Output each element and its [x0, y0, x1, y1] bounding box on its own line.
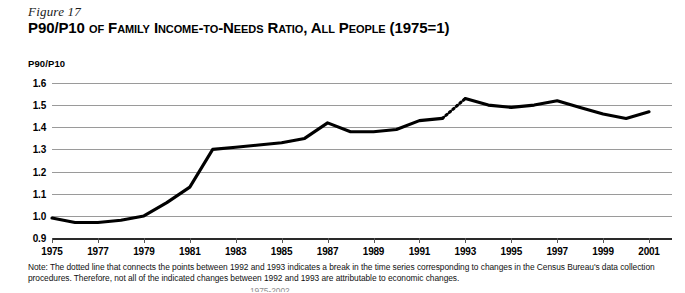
- y-axis-label: 1.6: [33, 78, 46, 89]
- y-axis-label: 1.2: [33, 166, 46, 177]
- x-axis-label: 1975: [41, 246, 62, 257]
- series-line: [52, 83, 672, 243]
- x-axis-label: 1999: [592, 246, 613, 257]
- x-axis-label: 1991: [409, 246, 430, 257]
- y-axis-label: 1.1: [33, 188, 46, 199]
- x-axis-label: 1995: [501, 246, 522, 257]
- y-axis-label: 1.3: [33, 144, 46, 155]
- figure-container: Figure 17 P90/P10 of Family Income-to-Ne…: [0, 0, 685, 293]
- x-axis-label: 1997: [546, 246, 567, 257]
- page-title: P90/P10 of Family Income-to-Needs Ratio,…: [28, 19, 449, 36]
- series-dotted-break-segment: [442, 99, 465, 119]
- figure-title-lead: P90/P10: [28, 19, 85, 36]
- figure-number: Figure 17: [28, 4, 81, 20]
- x-axis-label: 1989: [363, 246, 384, 257]
- figure-source-cutoff: 1975-2002: [250, 286, 550, 292]
- x-axis-label: 1981: [179, 246, 200, 257]
- chart-plot-area: 1.61.51.41.31.21.11.00.9 197519771979198…: [52, 83, 672, 238]
- series-solid-segment-early: [52, 118, 442, 222]
- y-axis-label: 1.4: [33, 122, 46, 133]
- x-axis-label: 1979: [133, 246, 154, 257]
- x-axis-label: 2001: [638, 246, 659, 257]
- x-axis-label: 1985: [271, 246, 292, 257]
- x-axis-label: 1993: [455, 246, 476, 257]
- y-axis-label: 1.0: [33, 210, 46, 221]
- figure-title-rest: of Family Income-to-Needs Ratio, All Peo…: [85, 19, 449, 36]
- x-axis-label: 1977: [87, 246, 108, 257]
- x-axis-label: 1983: [225, 246, 246, 257]
- y-axis-label: 0.9: [33, 233, 46, 244]
- series-solid-segment-late: [465, 99, 649, 119]
- figure-note: Note: The dotted line that connects the …: [28, 262, 676, 283]
- x-axis-label: 1987: [317, 246, 338, 257]
- y-axis-label: 1.5: [33, 100, 46, 111]
- y-axis-title: P90/P10: [28, 58, 65, 69]
